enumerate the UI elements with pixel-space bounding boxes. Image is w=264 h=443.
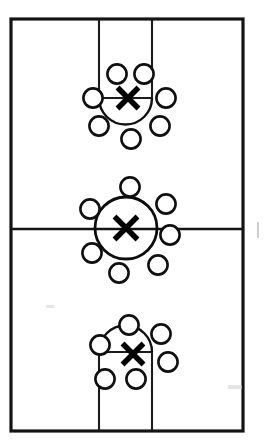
player-marker — [160, 225, 179, 244]
top-player-markers — [83, 64, 175, 148]
player-marker — [82, 243, 101, 262]
player-marker — [134, 64, 153, 83]
player-marker — [151, 324, 170, 343]
basketball-court-diagram — [0, 0, 264, 443]
player-marker — [83, 88, 102, 107]
player-marker — [95, 369, 114, 388]
player-marker — [158, 352, 177, 371]
player-marker — [109, 263, 128, 282]
court-svg-canvas — [0, 0, 264, 443]
scan-smudge — [46, 305, 54, 308]
player-marker — [150, 116, 169, 135]
player-marker — [148, 255, 167, 274]
x-marker-bottom — [123, 344, 144, 365]
player-marker — [126, 369, 145, 388]
scan-smudge — [228, 385, 242, 389]
player-marker — [156, 194, 175, 213]
player-marker — [121, 129, 140, 148]
player-marker — [107, 64, 126, 83]
player-marker — [89, 116, 108, 135]
player-marker — [80, 199, 99, 218]
player-marker — [90, 335, 109, 354]
player-marker — [119, 315, 138, 334]
player-marker — [156, 88, 175, 107]
player-marker — [120, 177, 139, 196]
